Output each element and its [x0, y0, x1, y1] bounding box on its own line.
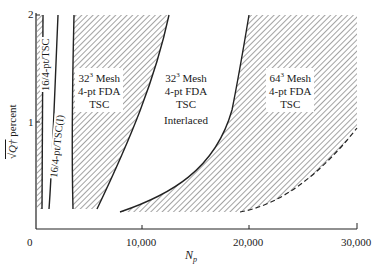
label-16-4pt-tsc: 16/4-pt/TSC: [40, 37, 51, 92]
x-tick-10000: 10,000: [126, 236, 156, 248]
y-tick-1: 1: [28, 116, 34, 128]
label-32-mesh-tsc-interlaced: 323 Mesh 4-pt FDA TSC Interlaced: [161, 68, 211, 128]
region-32-mesh-tsc: [72, 15, 169, 209]
x-tick-30000: 30,000: [341, 236, 371, 248]
x-tick-0: 0: [27, 236, 33, 248]
x-axis-label: Np: [185, 249, 197, 265]
label-32-mesh-tsc: 323 Mesh 4-pt FDA TSC: [75, 68, 123, 112]
y-axis-label: √Q† percent: [6, 103, 18, 160]
x-tick-20000: 20,000: [233, 236, 263, 248]
label-64-mesh-tsc: 643 Mesh 4-pt FDA TSC: [266, 68, 314, 112]
y-tick-2: 2: [28, 8, 34, 20]
